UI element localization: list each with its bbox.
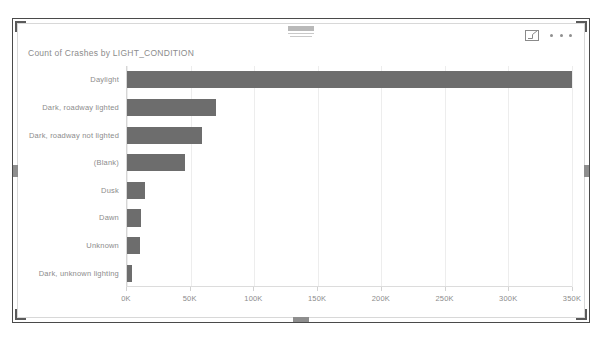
ellipsis-dot [569, 34, 572, 37]
x-axis-tick [381, 287, 382, 291]
y-axis-label: Dark, unknown lighting [18, 259, 126, 287]
x-axis-tick-label: 100K [244, 294, 262, 303]
x-axis-tick-label: 150K [308, 294, 326, 303]
more-options-icon[interactable] [550, 27, 572, 43]
x-axis-tick [508, 287, 509, 291]
grip-line [288, 33, 314, 34]
y-axis-label: Daylight [18, 66, 126, 94]
bar-row[interactable] [127, 94, 572, 122]
visual-inner: Count of Crashes by LIGHT_CONDITION Dayl… [17, 23, 585, 318]
resize-handle-top-left[interactable] [15, 21, 26, 32]
bar[interactable] [127, 71, 572, 88]
focus-mode-icon[interactable] [524, 27, 540, 43]
x-axis-tick [253, 287, 254, 291]
x-axis-tick-label: 300K [499, 294, 517, 303]
chart-title: Count of Crashes by LIGHT_CONDITION [28, 48, 194, 58]
resize-handle-left[interactable] [13, 165, 18, 177]
bar[interactable] [127, 99, 216, 116]
bar-row[interactable] [127, 259, 572, 287]
plot-area [126, 66, 572, 287]
bar[interactable] [127, 265, 132, 282]
ellipsis-dot [550, 34, 553, 37]
y-axis-label: (Blank) [18, 149, 126, 177]
resize-handle-bottom[interactable] [293, 317, 309, 322]
resize-handle-top-right[interactable] [576, 21, 587, 32]
bar-row[interactable] [127, 232, 572, 260]
drag-handle-grip[interactable] [288, 26, 314, 40]
visual-header [18, 24, 584, 46]
bar[interactable] [127, 127, 202, 144]
bar[interactable] [127, 154, 185, 171]
bar[interactable] [127, 182, 145, 199]
x-axis-tick [445, 287, 446, 291]
bar[interactable] [127, 237, 140, 254]
x-axis-tick-label: 350K [563, 294, 581, 303]
bar-row[interactable] [127, 149, 572, 177]
gridline [572, 66, 573, 287]
visual-container[interactable]: Count of Crashes by LIGHT_CONDITION Dayl… [12, 18, 590, 323]
bar-row[interactable] [127, 121, 572, 149]
x-axis: 0K50K100K150K200K250K300K350K [126, 286, 572, 317]
bar-row[interactable] [127, 66, 572, 94]
x-axis-tick-label: 50K [183, 294, 197, 303]
x-axis-tick-label: 200K [372, 294, 390, 303]
grip-line [290, 36, 312, 37]
x-axis-tick [126, 287, 127, 291]
x-axis-tick-label: 0K [121, 294, 131, 303]
ellipsis-dot [560, 34, 563, 37]
x-axis-tick-label: 250K [435, 294, 453, 303]
bar-series [127, 66, 572, 287]
y-axis-label: Dark, roadway not lighted [18, 121, 126, 149]
y-axis-label: Dawn [18, 204, 126, 232]
x-axis-tick [317, 287, 318, 291]
bar-row[interactable] [127, 177, 572, 205]
x-axis-tick [190, 287, 191, 291]
y-axis-label: Dusk [18, 177, 126, 205]
grip-block [288, 26, 314, 31]
y-axis-label: Dark, roadway lighted [18, 94, 126, 122]
resize-handle-bottom-left[interactable] [15, 309, 26, 320]
bar-row[interactable] [127, 204, 572, 232]
x-axis-tick [572, 287, 573, 291]
chart-area: DaylightDark, roadway lightedDark, roadw… [18, 66, 584, 317]
resize-handle-bottom-right[interactable] [576, 309, 587, 320]
bar[interactable] [127, 209, 141, 226]
y-axis-label: Unknown [18, 232, 126, 260]
resize-handle-right[interactable] [584, 165, 589, 177]
y-axis-labels: DaylightDark, roadway lightedDark, roadw… [18, 66, 126, 287]
